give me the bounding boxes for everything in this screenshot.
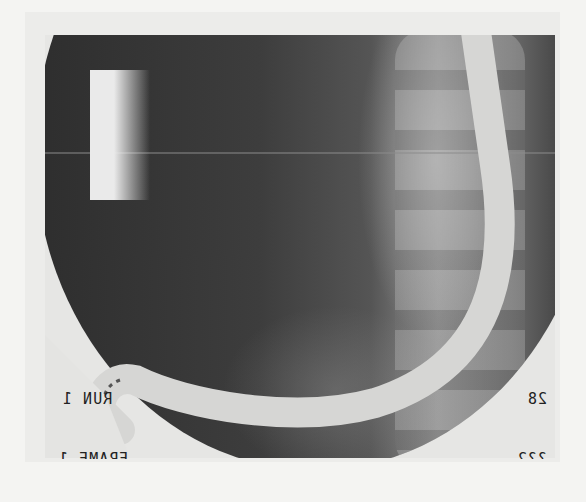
number-label: 28 [527, 390, 547, 408]
number-label-bottom: ??2 [517, 450, 547, 459]
frame-label: FRAME 1 [58, 450, 128, 459]
field-edge [90, 70, 150, 200]
run-label: RUN 1 [62, 390, 112, 408]
xray-image [45, 35, 555, 458]
